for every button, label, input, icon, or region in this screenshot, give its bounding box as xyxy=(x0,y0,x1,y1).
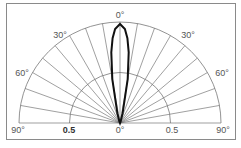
polar-chart: 0° 30° 30° 60° 60° 90° 90° 0.5 0° 0.5 xyxy=(0,0,241,148)
label-0-top: 0° xyxy=(116,10,125,20)
label-radial-0.5-right: 0.5 xyxy=(166,125,179,135)
label-30-left: 30° xyxy=(53,30,67,40)
label-30-right: 30° xyxy=(181,30,195,40)
label-60-left: 60° xyxy=(15,68,29,78)
label-radial-0.5-left: 0.5 xyxy=(63,125,76,135)
label-center-0: 0° xyxy=(116,125,125,135)
label-90-right: 90° xyxy=(216,125,230,135)
label-60-right: 60° xyxy=(215,68,229,78)
label-90-left: 90° xyxy=(11,125,25,135)
